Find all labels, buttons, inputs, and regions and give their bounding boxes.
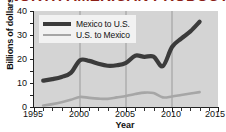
y-tick-label-40: 40 (5, 7, 27, 16)
x-tick-label-1995: 1995 (23, 109, 43, 119)
plot-area: Mexico to U.S. U.S. to Mexico (33, 11, 218, 108)
y-tick-label-10: 10 (5, 79, 27, 88)
legend-swatch-icon-mexico-to-us (43, 22, 71, 26)
legend-item-mexico-to-us: Mexico to U.S. (43, 18, 130, 29)
x-tick-label-2000: 2000 (69, 109, 89, 119)
x-axis-title: Year (33, 120, 217, 130)
chart-figure: NORTH AMERICAN PRODUCTION Billions of do… (0, 0, 226, 132)
x-tick-label-2010: 2010 (161, 109, 181, 119)
legend-swatch-icon-us-to-mexico (43, 34, 71, 36)
x-tick-label-2005: 2005 (115, 109, 135, 119)
chart-title: NORTH AMERICAN PRODUCTION (8, 0, 226, 4)
y-tick-label-30: 30 (5, 31, 27, 40)
legend-label-us-to-mexico: U.S. to Mexico (76, 30, 130, 40)
y-tick-label-20: 20 (5, 55, 27, 64)
x-tick-label-2015: 2015 (205, 109, 225, 119)
series-line-us-to-mexico (43, 92, 199, 105)
legend-label-mexico-to-us: Mexico to U.S. (76, 19, 130, 29)
chart-legend: Mexico to U.S. U.S. to Mexico (39, 15, 136, 43)
legend-item-us-to-mexico: U.S. to Mexico (43, 29, 130, 40)
